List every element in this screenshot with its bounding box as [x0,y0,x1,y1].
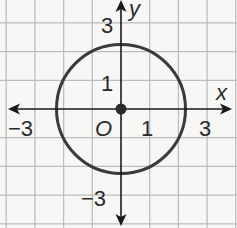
coordinate-plane-figure: y x O 3 1 −3 −3 1 3 [0,0,237,228]
y-tick-label-neg3: −3 [81,186,106,211]
x-tick-label-1: 1 [141,116,153,141]
x-tick-label-neg3: −3 [8,116,33,141]
x-tick-label-3: 3 [199,116,211,141]
x-axis-label: x [215,80,228,105]
origin-label: O [95,116,112,141]
y-tick-label-1: 1 [101,71,113,96]
center-point [116,104,127,115]
y-tick-label-3: 3 [101,13,113,38]
y-axis-label: y [127,0,142,21]
coordinate-plane: y x O 3 1 −3 −3 1 3 [0,0,237,228]
grid [0,0,237,228]
